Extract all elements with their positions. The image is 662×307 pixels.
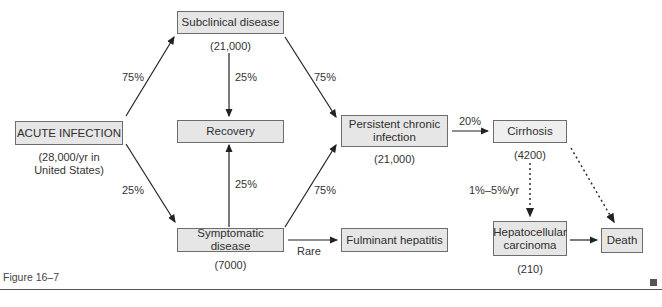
edge-label-symptomatic-fulminant: Rare	[297, 245, 321, 257]
node-death: Death	[601, 228, 643, 253]
hcc-count: (210)	[493, 263, 567, 276]
acute-count: (28,000/yr in United States)	[10, 151, 128, 177]
edge-label-cirrhosis-hcc: 1%–5%/yr	[469, 184, 519, 196]
node-label: ACUTE INFECTION	[17, 127, 121, 140]
edge-label-subclinical-persistent: 75%	[314, 71, 336, 83]
persistent-count: (21,000)	[341, 153, 448, 166]
node-acute-infection: ACUTE INFECTION	[15, 121, 123, 145]
figure-label: Figure 16–7	[3, 271, 59, 283]
edge-label-symptomatic-persistent: 75%	[314, 184, 336, 196]
node-symptomatic-disease: Symptomatic disease	[177, 228, 284, 252]
cropped-text-line	[3, 301, 263, 307]
end-marker-square	[650, 279, 657, 286]
edge-label-acute-subclinical: 75%	[122, 71, 144, 83]
node-cirrhosis: Cirrhosis	[493, 120, 567, 143]
edge-label-subclinical-recovery: 25%	[235, 71, 257, 83]
subclinical-count: (21,000)	[177, 40, 284, 53]
cirrhosis-count: (4200)	[493, 149, 567, 162]
caption-rule	[0, 289, 662, 290]
node-recovery: Recovery	[177, 120, 284, 143]
node-persistent-chronic-infection: Persistent chronic infection	[341, 115, 448, 147]
node-subclinical-disease: Subclinical disease	[177, 11, 284, 34]
symptomatic-count: (7000)	[177, 259, 284, 272]
edge-label-acute-symptomatic: 25%	[122, 184, 144, 196]
node-fulminant-hepatitis: Fulminant hepatitis	[341, 228, 448, 252]
edge-label-persistent-cirrhosis: 20%	[459, 115, 481, 127]
node-hepatocellular-carcinoma: Hepatocellular carcinoma	[493, 221, 567, 256]
edge-label-symptomatic-recovery: 25%	[235, 178, 257, 190]
